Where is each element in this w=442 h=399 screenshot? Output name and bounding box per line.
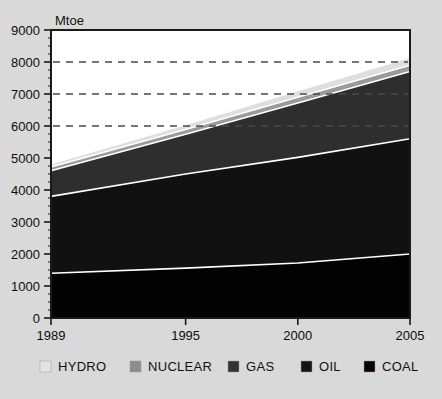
legend-label-nuclear: NUCLEAR bbox=[148, 359, 212, 374]
chart-figure: Mtoe 01000200030004000500060007000800090… bbox=[0, 0, 442, 399]
y-tick-label-1000: 1000 bbox=[11, 279, 40, 294]
x-tick-label-1989: 1989 bbox=[37, 328, 66, 343]
y-tick-label-4000: 4000 bbox=[11, 183, 40, 198]
y-tick-label-7000: 7000 bbox=[11, 87, 40, 102]
y-tick-label-9000: 9000 bbox=[11, 23, 40, 38]
x-tick-label-2005: 2005 bbox=[396, 328, 425, 343]
y-tick-label-5000: 5000 bbox=[11, 151, 40, 166]
stacked-area-chart: Mtoe 01000200030004000500060007000800090… bbox=[0, 0, 442, 399]
legend-swatch-nuclear bbox=[130, 361, 141, 372]
y-tick-label-8000: 8000 bbox=[11, 55, 40, 70]
legend-swatch-oil bbox=[301, 361, 312, 372]
legend-label-gas: GAS bbox=[246, 359, 274, 374]
legend-swatch-coal bbox=[364, 361, 375, 372]
y-tick-label-0: 0 bbox=[33, 311, 40, 326]
x-tick-label-2000: 2000 bbox=[283, 328, 312, 343]
y-tick-label-2000: 2000 bbox=[11, 247, 40, 262]
x-tick-label-1995: 1995 bbox=[171, 328, 200, 343]
legend-label-oil: OIL bbox=[319, 359, 341, 374]
y-axis-unit-label: Mtoe bbox=[55, 13, 84, 28]
legend-swatch-gas bbox=[228, 361, 239, 372]
legend-label-hydro: HYDRO bbox=[58, 359, 106, 374]
legend-swatch-hydro bbox=[40, 361, 51, 372]
legend-label-coal: COAL bbox=[382, 359, 419, 374]
y-tick-label-3000: 3000 bbox=[11, 215, 40, 230]
y-tick-label-6000: 6000 bbox=[11, 119, 40, 134]
